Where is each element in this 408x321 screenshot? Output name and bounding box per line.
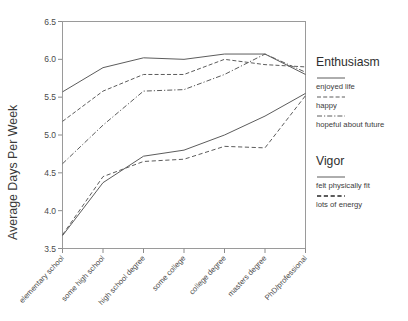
line-chart: Average Days Per Week 3.54.04.55.05.56.0… bbox=[0, 0, 408, 321]
x-tick-label: some college bbox=[150, 254, 187, 293]
legend-group-title: Vigor bbox=[316, 154, 344, 168]
x-axis-tick-labels: elementary schoolsome high schoolhigh sc… bbox=[17, 254, 309, 307]
y-tick-label: 5.0 bbox=[44, 130, 56, 140]
y-tick-label: 6.5 bbox=[44, 17, 56, 27]
legend-entry-label: felt physically fit bbox=[316, 181, 371, 190]
series-line bbox=[63, 54, 306, 92]
y-axis-tickmarks bbox=[58, 22, 63, 249]
series-line bbox=[63, 96, 306, 235]
y-tick-label: 6.0 bbox=[44, 54, 56, 64]
y-tick-label: 4.0 bbox=[44, 206, 56, 216]
x-tick-label: some high school bbox=[60, 254, 107, 304]
legend-entry-label: enjoyed life bbox=[316, 82, 355, 91]
y-axis-title-group: Average Days Per Week bbox=[6, 104, 20, 240]
x-axis-tickmarks bbox=[63, 249, 306, 254]
legend-entry-label: lots of energy bbox=[316, 200, 362, 209]
series-line bbox=[63, 59, 306, 121]
legend-entry-label: hopeful about future bbox=[316, 120, 384, 129]
chart-container: Average Days Per Week 3.54.04.55.05.56.0… bbox=[0, 0, 408, 321]
x-tick-label: masters degree bbox=[226, 254, 269, 299]
y-axis-title: Average Days Per Week bbox=[6, 104, 20, 240]
legend: Enthusiasmenjoyed lifehappyhopeful about… bbox=[316, 55, 384, 209]
legend-entry-label: happy bbox=[316, 101, 337, 110]
x-tick-label: college degree bbox=[187, 254, 228, 297]
y-tick-label: 4.5 bbox=[44, 168, 56, 178]
y-axis-tick-labels: 3.54.04.55.05.56.06.5 bbox=[44, 17, 56, 254]
series-line bbox=[63, 93, 306, 235]
series-lines bbox=[63, 54, 306, 236]
y-tick-label: 3.5 bbox=[44, 244, 56, 254]
legend-group-title: Enthusiasm bbox=[316, 55, 380, 69]
x-tick-label: PhD/professional bbox=[263, 254, 309, 303]
y-tick-label: 5.5 bbox=[44, 92, 56, 102]
